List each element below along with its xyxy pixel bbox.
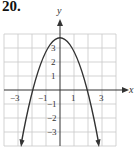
svg-text:−3: −3 [10,93,20,103]
svg-text:−1: −1 [47,99,57,109]
svg-text:−2: −2 [47,113,57,123]
svg-text:1: 1 [51,71,56,81]
x-axis-arrow-icon [122,87,129,93]
y-axis-label: y [56,5,62,16]
svg-text:3: 3 [99,93,104,103]
axes [4,22,126,146]
x-axis-label: x [128,84,134,95]
svg-text:1: 1 [71,93,76,103]
parabola-graph: x y −3 −1 1 3 3 2 1 −1 −2 −3 [0,0,135,150]
svg-text:3: 3 [51,43,56,53]
svg-text:−3: −3 [47,127,57,137]
svg-text:2: 2 [51,57,56,67]
y-axis-arrow-icon [57,19,63,26]
